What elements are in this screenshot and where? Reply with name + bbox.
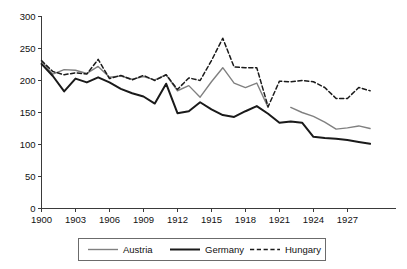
x-tick-label: 1924 xyxy=(303,214,324,225)
x-tick-label: 1909 xyxy=(133,214,154,225)
line-chart-figure: 050100150200250300 190019031906190919121… xyxy=(0,0,407,269)
y-tick-label: 300 xyxy=(20,11,36,22)
x-tick-label: 1918 xyxy=(235,214,256,225)
y-tick-label: 100 xyxy=(20,139,36,150)
legend-label-hungary: Hungary xyxy=(285,244,321,255)
x-tick-label: 1900 xyxy=(31,214,52,225)
y-tick-label: 50 xyxy=(25,171,36,182)
x-tick-label: 1927 xyxy=(337,214,358,225)
y-tick-label: 250 xyxy=(20,43,36,54)
chart-legend: AustriaGermanyHungary xyxy=(79,239,326,261)
y-tick-label: 150 xyxy=(20,107,36,118)
series-line-germany xyxy=(42,64,371,144)
x-tick-label: 1912 xyxy=(167,214,188,225)
series-line-austria xyxy=(42,61,269,107)
legend-label-germany: Germany xyxy=(205,244,244,255)
legend-label-austria: Austria xyxy=(123,244,153,255)
x-tick-label: 1915 xyxy=(201,214,222,225)
x-tick-group: 1900190319061909191219151918192119241927 xyxy=(31,209,358,225)
series-group xyxy=(42,38,371,144)
series-line-hungary xyxy=(42,38,371,106)
chart-plot-area: 050100150200250300 190019031906190919121… xyxy=(0,0,407,269)
series-line-austria xyxy=(291,107,370,129)
y-tick-label: 200 xyxy=(20,75,36,86)
x-tick-label: 1921 xyxy=(269,214,290,225)
y-tick-label: 0 xyxy=(30,203,35,214)
x-tick-label: 1906 xyxy=(99,214,120,225)
y-tick-group: 050100150200250300 xyxy=(20,11,42,214)
x-tick-label: 1903 xyxy=(65,214,86,225)
